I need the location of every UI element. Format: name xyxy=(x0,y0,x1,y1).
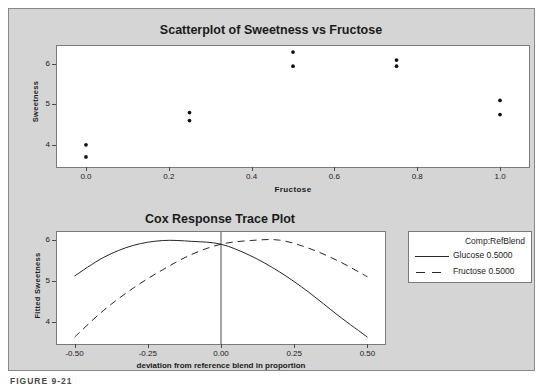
y-tick-mark xyxy=(52,322,56,323)
x-tick-mark xyxy=(252,167,253,171)
legend-item-fructose-label: Fructose 0.5000 xyxy=(453,266,514,276)
scatterplot-title: Scatterplot of Sweetness vs Fructose xyxy=(45,23,497,37)
cox-plot-data-area xyxy=(56,231,386,345)
y-tick-mark xyxy=(52,64,56,65)
legend-item-glucose: Glucose 0.5000 xyxy=(409,249,531,264)
figure-page: Scatterplot of Sweetness vs Fructose 0.0… xyxy=(0,0,543,388)
scatter-point xyxy=(395,58,399,62)
y-tick-mark xyxy=(52,281,56,282)
scatterplot-points-layer xyxy=(57,46,529,167)
y-tick-mark xyxy=(52,104,56,105)
scatter-point xyxy=(498,99,502,103)
x-tick-mark xyxy=(148,344,149,348)
cox-trace-curves-layer xyxy=(57,232,385,344)
scatter-point xyxy=(84,155,88,159)
x-tick-label: 0.00 xyxy=(203,349,239,358)
figure-caption: FIGURE 9-21 xyxy=(10,376,73,388)
legend-item-fructose: Fructose 0.5000 xyxy=(409,265,531,280)
x-tick-mark xyxy=(334,167,335,171)
x-tick-label: 0.2 xyxy=(154,172,184,181)
legend-item-glucose-label: Glucose 0.5000 xyxy=(453,250,513,260)
scatterplot-data-area xyxy=(56,45,530,168)
scatterplot-x-axis-title: Fructose xyxy=(56,185,530,194)
y-tick-mark xyxy=(52,240,56,241)
x-tick-label: 0.8 xyxy=(402,172,432,181)
scatter-point xyxy=(84,143,88,147)
scatter-point xyxy=(291,64,295,68)
scatter-point xyxy=(498,113,502,117)
cox-plot-x-axis-title: deviation from reference blend in propor… xyxy=(56,361,386,370)
x-tick-label: -0.25 xyxy=(130,349,166,358)
y-tick-mark xyxy=(52,145,56,146)
cox-plot-y-axis-title: Fitted Sweetness xyxy=(33,241,42,331)
scatter-point xyxy=(188,111,192,115)
x-tick-mark xyxy=(500,167,501,171)
x-tick-mark xyxy=(75,344,76,348)
x-tick-label: 1.0 xyxy=(485,172,515,181)
x-tick-label: 0.6 xyxy=(319,172,349,181)
x-tick-mark xyxy=(367,344,368,348)
figure-panel: Scatterplot of Sweetness vs Fructose 0.0… xyxy=(8,8,535,371)
x-tick-mark xyxy=(169,167,170,171)
scatter-point xyxy=(395,64,399,68)
scatter-point xyxy=(188,119,192,123)
x-tick-mark xyxy=(221,344,222,348)
x-tick-label: 0.4 xyxy=(237,172,267,181)
y-tick-label: 4 xyxy=(32,140,50,149)
x-tick-label: 0.50 xyxy=(349,349,385,358)
x-tick-mark xyxy=(86,167,87,171)
x-tick-mark xyxy=(294,344,295,348)
legend-heading: Comp:RefBlend xyxy=(465,236,525,246)
scatterplot-y-axis-title: Sweetness xyxy=(31,67,40,137)
x-tick-label: 0.25 xyxy=(276,349,312,358)
cox-plot-legend: Comp:RefBlend Glucose 0.5000 Fructose 0.… xyxy=(408,231,532,283)
cox-plot-title: Cox Response Trace Plot xyxy=(45,212,395,226)
scatter-point xyxy=(291,50,295,54)
x-tick-mark xyxy=(417,167,418,171)
x-tick-label: -0.50 xyxy=(57,349,93,358)
x-tick-label: 0.0 xyxy=(71,172,101,181)
